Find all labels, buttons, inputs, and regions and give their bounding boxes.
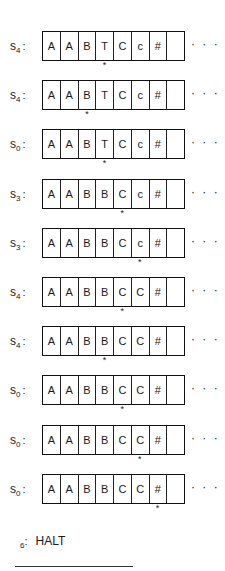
tape-cell: B [79,327,97,355]
halt-colon: : [24,535,27,547]
tape-row: s4:AABTCc#· · ·* [0,80,225,124]
state-colon: : [22,434,25,446]
tape-cell: B [79,278,97,306]
tape-continuation: · · · [191,185,220,199]
tape-cell: # [150,81,168,109]
tape-cell: B [96,229,114,257]
tape-cell: c [132,32,150,60]
tape-continuation: · · · [191,86,220,100]
tape-cell: C [114,229,132,257]
tape-cell [167,229,184,257]
tape-cell [167,180,184,208]
tape-cell: A [61,278,79,306]
tape-cell: A [43,130,61,158]
tape-cell: C [132,327,150,355]
tape-cell: A [61,81,79,109]
tape-cell: B [79,32,97,60]
tape-cell: C [132,475,150,503]
tape-cell: # [150,278,168,306]
tape: AABTCc# [42,80,185,110]
tape-cell [167,130,184,158]
tape-cell: A [61,327,79,355]
tape-cell: C [114,81,132,109]
state-colon: : [22,138,25,150]
head-marker: * [138,258,142,267]
tape: AABBCc# [42,228,185,258]
state-label: s3: [10,236,26,252]
head-marker: * [120,405,124,414]
tape-row: s3:AABBCc#· · ·* [0,228,225,272]
head-marker: * [120,209,124,218]
state-index: 0 [16,144,20,153]
tape-cell: B [79,130,97,158]
state-label: s3: [10,187,26,203]
tape-cell: A [43,229,61,257]
state-colon: : [22,89,25,101]
head-marker: * [85,110,89,119]
tape-cell: T [96,32,114,60]
tape-cell: C [114,376,132,404]
tape-cell: C [114,327,132,355]
tape-continuation: · · · [191,381,220,395]
state-index: 4 [16,292,20,301]
state-colon: : [22,335,25,347]
tape-continuation: · · · [191,234,220,248]
tape: AABBCC# [42,474,185,504]
tape-cell: C [132,376,150,404]
tape-cell: # [150,180,168,208]
tape-cell: B [79,180,97,208]
tape-cell [167,81,184,109]
tape-cell: B [96,475,114,503]
state-index: 0 [16,489,20,498]
tape-row: s4:AABBCC#· · ·* [0,326,225,370]
head-marker: * [138,455,142,464]
tape-cell: # [150,376,168,404]
head-marker: * [103,356,107,365]
tape-cell: B [79,229,97,257]
tape-cell [167,376,184,404]
state-colon: : [22,237,25,249]
tape-cell: A [61,32,79,60]
tape-cell: A [43,278,61,306]
state-index: 3 [16,243,20,252]
tape-cell: A [61,180,79,208]
state-label: s0: [10,482,26,498]
state-label: s0: [10,433,26,449]
tape-continuation: · · · [191,37,220,51]
tape-cell [167,32,184,60]
tape-cell: A [43,81,61,109]
tape-cell [167,278,184,306]
tape-cell: A [61,376,79,404]
halt-line: 6: HALT [20,534,65,550]
tape: AABBCC# [42,277,185,307]
head-marker: * [120,307,124,316]
tape-cell: c [132,130,150,158]
tape-cell: C [114,426,132,454]
tape-cell: # [150,426,168,454]
tape-cell: C [132,278,150,306]
state-index: 4 [16,95,20,104]
state-index: 3 [16,194,20,203]
tape-cell: B [79,81,97,109]
tape-cell: # [150,229,168,257]
state-label: s4: [10,285,26,301]
tape-continuation: · · · [191,332,220,346]
state-index: 0 [16,440,20,449]
tape-continuation: · · · [191,431,220,445]
tape-cell: # [150,32,168,60]
tape-cell: B [96,180,114,208]
tape: AABBCC# [42,425,185,455]
state-label: s0: [10,383,26,399]
tape-row: s4:AABTCc#· · ·* [0,31,225,75]
tape-cell: C [114,130,132,158]
tape-cell: A [61,229,79,257]
tape: AABTCc# [42,129,185,159]
tape-continuation: · · · [191,480,220,494]
tape-cell: B [79,376,97,404]
tape-cell: B [96,327,114,355]
state-label: s0: [10,137,26,153]
state-colon: : [22,286,25,298]
head-marker: * [156,504,160,513]
tape-cell: A [61,130,79,158]
tape-cell: c [132,81,150,109]
